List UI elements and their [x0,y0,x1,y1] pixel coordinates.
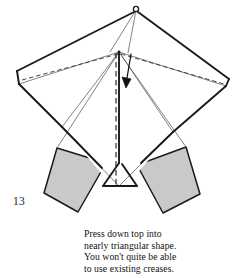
caption-line-2: nearly triangular shape. [84,240,234,252]
step-number: 13 [13,196,25,208]
outline-left-tip-edge [17,71,19,84]
caption-line-1: Press down top into [84,228,234,240]
apex-circle-marker [133,6,138,11]
caption-block: Press down top into nearly triangular sh… [84,228,234,274]
hub-vertex-node [118,51,121,54]
caption-line-3: You won't quite be able [84,251,234,263]
outline-right-tip-edge [226,79,229,86]
origami-figure-panel: 13 Press down top into nearly triangular… [0,0,243,278]
caption-line-4: to use existing creases. [84,263,234,275]
